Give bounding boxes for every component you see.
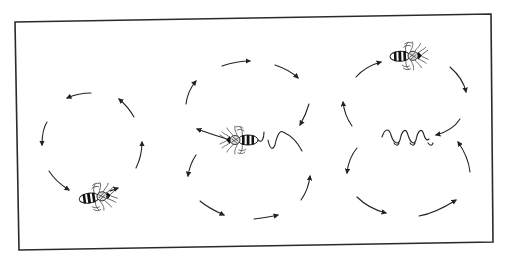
illustration-canvas [0, 0, 507, 261]
bee-dance-figure [0, 0, 507, 261]
figure-frame [15, 14, 493, 250]
